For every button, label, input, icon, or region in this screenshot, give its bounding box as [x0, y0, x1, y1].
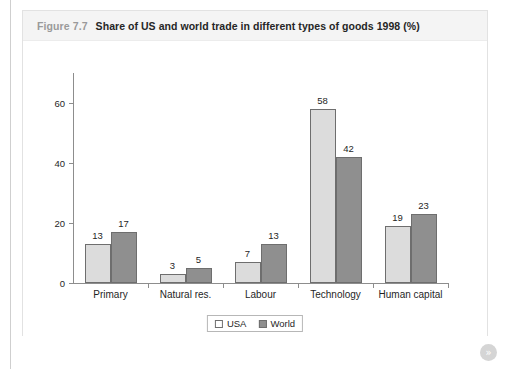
bar-usa — [310, 109, 336, 283]
legend-label: World — [270, 318, 295, 329]
y-axis-tick-label: 40 — [54, 158, 65, 169]
y-axis-tick — [69, 283, 74, 284]
bar-value-label: 7 — [245, 248, 250, 259]
next-page-button[interactable]: » — [480, 344, 497, 361]
bar-usa — [160, 274, 186, 283]
bar-value-label: 13 — [268, 230, 279, 241]
bar-usa — [235, 262, 261, 283]
x-axis-tick — [373, 283, 374, 288]
page-margin-rule — [10, 0, 11, 369]
legend-swatch-icon — [215, 320, 223, 328]
legend-label: USA — [227, 318, 247, 329]
bar-usa — [85, 244, 111, 283]
bar-value-label: 42 — [343, 143, 354, 154]
category-label: Natural res. — [160, 289, 212, 300]
legend-item-world[interactable]: World — [258, 318, 295, 329]
bar-usa — [385, 226, 411, 283]
figure-caption: Figure 7.7 Share of US and world trade i… — [23, 11, 487, 41]
bar-world — [186, 268, 212, 283]
bar-value-label: 13 — [92, 230, 103, 241]
x-axis-tick — [448, 283, 449, 288]
chart-area: 0204060 13173571358421923 PrimaryNatural… — [23, 41, 487, 336]
chart-legend: USAWorld — [207, 315, 303, 332]
category-label: Labour — [245, 289, 276, 300]
figure-number: Figure 7.7 — [37, 20, 88, 32]
bar-value-label: 19 — [392, 212, 403, 223]
y-axis-tick-label: 0 — [60, 278, 65, 289]
y-axis-tick-label: 60 — [54, 98, 65, 109]
bar-value-label: 5 — [196, 254, 201, 265]
bar-world — [336, 157, 362, 283]
x-axis-tick — [148, 283, 149, 288]
y-axis-tick — [69, 103, 74, 104]
bar-world — [411, 214, 437, 283]
category-label: Technology — [310, 289, 361, 300]
bar-world — [261, 244, 287, 283]
bar-value-label: 3 — [170, 260, 175, 271]
y-axis-tick-label: 20 — [54, 218, 65, 229]
x-axis-tick — [223, 283, 224, 288]
x-axis-line — [73, 283, 448, 284]
bar-value-label: 58 — [317, 95, 328, 106]
y-axis-line — [73, 73, 74, 283]
bar-value-label: 23 — [418, 200, 429, 211]
figure-title: Share of US and world trade in different… — [96, 20, 420, 32]
y-axis-tick — [69, 223, 74, 224]
plot-region: 0204060 13173571358421923 PrimaryNatural… — [73, 73, 448, 283]
legend-swatch-icon — [258, 320, 266, 328]
category-label: Human capital — [379, 289, 443, 300]
x-axis-tick — [298, 283, 299, 288]
bar-value-label: 17 — [118, 218, 129, 229]
legend-item-usa[interactable]: USA — [215, 318, 247, 329]
category-label: Primary — [93, 289, 127, 300]
y-axis-tick — [69, 163, 74, 164]
bar-world — [111, 232, 137, 283]
figure-container: Figure 7.7 Share of US and world trade i… — [22, 10, 488, 336]
